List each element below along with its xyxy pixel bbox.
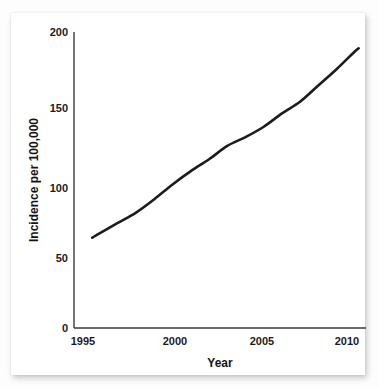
y-tick-label-50: 50 <box>56 252 68 264</box>
y-axis-title: Incidence per 100,000 <box>27 118 41 242</box>
y-tick-label-150: 150 <box>50 102 68 114</box>
x-tick-label-2010: 2010 <box>335 335 359 347</box>
x-axis-title: Year <box>207 356 233 370</box>
x-tick-label-1995: 1995 <box>71 335 95 347</box>
line-chart: 200 150 100 50 0 1995 2000 2005 2010 Yea… <box>0 0 379 389</box>
y-tick-label-100: 100 <box>50 182 68 194</box>
figure-root: 200 150 100 50 0 1995 2000 2005 2010 Yea… <box>0 0 379 389</box>
x-tick-label-2000: 2000 <box>163 335 187 347</box>
y-tick-label-200: 200 <box>50 26 68 38</box>
y-tick-label-0: 0 <box>62 322 68 334</box>
x-tick-label-2005: 2005 <box>250 335 274 347</box>
data-series-incidence <box>92 48 358 237</box>
